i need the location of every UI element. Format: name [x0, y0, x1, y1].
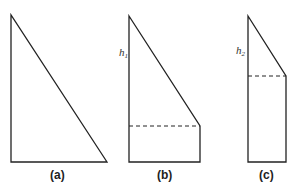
- shape-c: [248, 16, 286, 162]
- height-label-h1: h1: [119, 46, 128, 60]
- triangle-a: [11, 15, 107, 162]
- shape-b: [129, 16, 200, 162]
- diagram: (a) h1 (b) h2 (c): [0, 0, 297, 191]
- figure-c: h2 (c): [236, 16, 286, 182]
- caption-b: (b): [157, 168, 172, 182]
- figure-a: (a): [11, 15, 107, 182]
- figure-canvas: (a) h1 (b) h2 (c): [0, 0, 297, 191]
- height-label-h2: h2: [236, 44, 246, 58]
- caption-a: (a): [50, 168, 65, 182]
- figure-b: h1 (b): [119, 16, 200, 182]
- caption-c: (c): [259, 168, 274, 182]
